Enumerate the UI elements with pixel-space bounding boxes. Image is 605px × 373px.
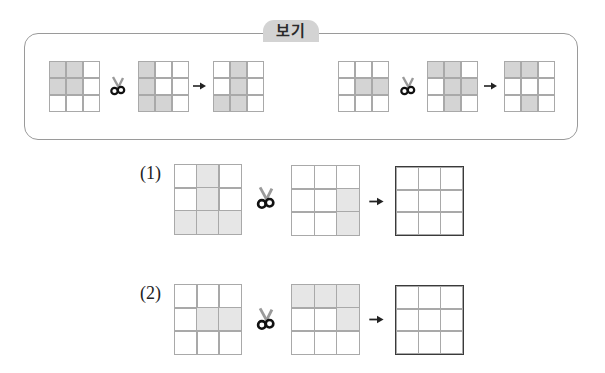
grid-cell: [336, 188, 360, 212]
example-tab-label: 보기: [263, 20, 319, 42]
grid-cell: [504, 78, 522, 96]
grid-cell: [504, 61, 522, 79]
example-2-result-grid: [504, 61, 555, 112]
grid-cell: [213, 95, 231, 113]
grid-cell: [291, 307, 315, 331]
grid-cell: [291, 165, 315, 189]
grid-cell: [355, 78, 373, 96]
grid-cell: [314, 307, 338, 331]
grid-cell: [218, 187, 241, 211]
grid-cell: [218, 164, 241, 188]
grid-cell: [174, 164, 197, 188]
grid-cell: [49, 95, 67, 113]
grid-cell[interactable]: [396, 330, 419, 353]
grid-cell: [336, 307, 360, 331]
example-2-right-grid: [427, 61, 478, 112]
grid-cell: [444, 78, 462, 96]
grid-cell: [314, 188, 338, 212]
grid-cell[interactable]: [396, 167, 419, 190]
grid-cell: [172, 95, 190, 113]
grid-cell: [427, 95, 445, 113]
grid-cell: [138, 95, 156, 113]
grid-cell: [174, 330, 197, 354]
grid-cell: [538, 95, 556, 113]
grid-cell: [247, 78, 265, 96]
grid-cell[interactable]: [440, 330, 463, 353]
arrow-right-icon: [368, 196, 386, 207]
grid-cell: [372, 61, 390, 79]
grid-cell: [138, 78, 156, 96]
arrow-right-icon: [484, 81, 498, 91]
problem-2-answer-grid[interactable]: [395, 285, 464, 355]
grid-cell: [66, 95, 84, 113]
grid-cell: [49, 78, 67, 96]
grid-cell: [196, 307, 219, 331]
grid-cell: [196, 284, 219, 308]
grid-cell: [196, 187, 219, 211]
arrow-right-icon: [193, 81, 207, 91]
grid-cell: [230, 95, 248, 113]
problem-1-label: (1): [140, 163, 161, 184]
grid-cell: [521, 78, 539, 96]
grid-cell: [213, 78, 231, 96]
grid-cell[interactable]: [440, 167, 463, 190]
grid-cell[interactable]: [396, 286, 419, 309]
problem-1-left-grid: [175, 165, 241, 234]
grid-cell: [196, 330, 219, 354]
grid-cell[interactable]: [418, 167, 441, 190]
grid-cell: [461, 78, 479, 96]
grid-cell[interactable]: [440, 286, 463, 309]
grid-cell: [521, 61, 539, 79]
grid-cell: [213, 61, 231, 79]
grid-cell: [338, 95, 356, 113]
grid-cell: [66, 78, 84, 96]
grid-cell: [218, 210, 241, 234]
problem-1-right-grid: [292, 166, 359, 235]
grid-cell: [314, 284, 338, 308]
grid-cell[interactable]: [418, 330, 441, 353]
grid-cell: [461, 95, 479, 113]
grid-cell: [247, 95, 265, 113]
grid-cell: [218, 330, 241, 354]
grid-cell: [172, 78, 190, 96]
grid-cell: [314, 211, 338, 235]
grid-cell: [174, 187, 197, 211]
grid-cell[interactable]: [418, 308, 441, 331]
grid-cell: [174, 307, 197, 331]
grid-cell: [538, 61, 556, 79]
grid-cell: [138, 61, 156, 79]
grid-cell[interactable]: [418, 286, 441, 309]
grid-cell: [444, 95, 462, 113]
grid-cell: [291, 330, 315, 354]
scissors-icon: [398, 75, 418, 97]
grid-cell[interactable]: [418, 211, 441, 234]
grid-cell[interactable]: [440, 189, 463, 212]
grid-cell: [218, 307, 241, 331]
grid-cell: [155, 78, 173, 96]
grid-cell: [444, 61, 462, 79]
grid-cell: [314, 330, 338, 354]
grid-cell: [83, 78, 101, 96]
grid-cell: [314, 165, 338, 189]
grid-cell: [521, 95, 539, 113]
grid-cell: [218, 284, 241, 308]
grid-cell: [196, 210, 219, 234]
problem-1-answer-grid[interactable]: [395, 166, 464, 236]
grid-cell: [49, 61, 67, 79]
grid-cell: [196, 164, 219, 188]
problem-2-left-grid: [175, 285, 241, 354]
grid-cell: [66, 61, 84, 79]
grid-cell[interactable]: [440, 308, 463, 331]
grid-cell[interactable]: [396, 308, 419, 331]
scissors-icon: [108, 75, 128, 97]
grid-cell: [291, 211, 315, 235]
grid-cell[interactable]: [396, 189, 419, 212]
grid-cell: [461, 61, 479, 79]
grid-cell: [174, 284, 197, 308]
grid-cell[interactable]: [418, 189, 441, 212]
grid-cell[interactable]: [396, 211, 419, 234]
grid-cell[interactable]: [440, 211, 463, 234]
grid-cell: [174, 210, 197, 234]
grid-cell: [372, 78, 390, 96]
grid-cell: [355, 95, 373, 113]
